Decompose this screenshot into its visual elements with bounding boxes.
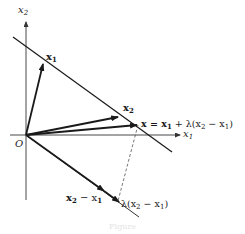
x1-axis-label-sub: 1 xyxy=(189,133,193,141)
vector-diff-label: x2 − x1 xyxy=(66,193,102,204)
vector-x2-label: x2 xyxy=(123,103,134,114)
vector-scaled-label-suffix: ) xyxy=(164,198,168,209)
figure-caption: Figure xyxy=(0,222,245,231)
x2-axis-label: x2 xyxy=(18,5,28,17)
origin-label: O xyxy=(15,139,23,149)
x2-axis-label-sub: 2 xyxy=(24,9,28,17)
vector-x2 xyxy=(26,117,118,135)
vector-lambda-diff xyxy=(104,191,119,202)
vector-diff-label-mid: − x xyxy=(77,192,97,203)
vector-x1 xyxy=(26,64,43,135)
vector-scaled-label-mid: − x xyxy=(141,198,160,209)
vector-scaled-label: λ(x2 − x1) xyxy=(121,199,168,211)
vector-x-label-suffix: ) xyxy=(229,118,233,129)
vector-x-label-prefix: x = x xyxy=(141,118,167,129)
vector-x1-label-sub: 1 xyxy=(52,55,57,64)
vector-x1-label: x1 xyxy=(46,52,57,63)
vector-x xyxy=(26,125,137,135)
vector-x2-minus-x1 xyxy=(26,135,104,191)
vector-diff-label-sub-b: 1 xyxy=(97,196,102,205)
vector-x2-label-sub: 2 xyxy=(129,106,134,115)
vector-x-label-mid2: − x xyxy=(205,118,224,129)
dashed-construction-line xyxy=(118,125,138,201)
vector-x-label-mid: + λ(x xyxy=(172,118,201,129)
vector-x-label: x = x1 + λ(x2 − x1) xyxy=(141,119,233,131)
vector-scaled-label-a: λ(x xyxy=(121,198,136,209)
